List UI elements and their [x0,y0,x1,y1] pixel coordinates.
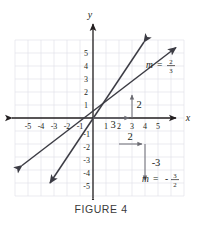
y-tick-3: 3 [84,75,88,84]
slope-negative-equals: = [153,174,158,184]
slope-positive-numerator: 2 [169,58,173,65]
slope-positive-equals: = [157,60,162,70]
slope-negative-m: m [142,174,149,184]
slope-label-positive: m = 2 3 [146,58,175,74]
x-tick-4: 4 [143,122,147,131]
figure-caption: FIGURE 4 [0,203,202,215]
y-tick--5: -5 [83,182,90,191]
x-tick-2: 2 [117,122,121,131]
slope-negative-numerator: 3 [173,172,177,179]
x-tick--3: -3 [51,122,58,131]
run-label-positive: 3 [110,119,115,130]
slope-label-negative: m = - 3 2 [142,172,179,188]
y-tick--4: -4 [83,169,90,178]
slope-positive-m: m [146,60,153,70]
x-tick-3: 3 [130,122,134,131]
coordinate-plane: x y -5 -4 -3 -2 -1 1 2 3 4 5 5 4 3 2 1 -… [0,0,202,200]
slope-triangle-negative: 2 -3 [119,131,160,180]
figure-container: x y -5 -4 -3 -2 -1 1 2 3 4 5 5 4 3 2 1 -… [0,0,202,227]
y-tick--3: -3 [83,156,90,165]
rise-label-negative: -3 [152,157,161,168]
graph-svg: x y -5 -4 -3 -2 -1 1 2 3 4 5 5 4 3 2 1 -… [0,0,202,200]
x-tick--4: -4 [38,122,45,131]
y-tick-5: 5 [84,49,88,58]
axis-label-x: x [185,112,191,123]
x-tick-1: 1 [104,122,108,131]
axis-label-y: y [87,9,93,20]
rise-label-positive: 2 [136,99,141,110]
y-tick-2: 2 [84,88,88,97]
x-tick--5: -5 [25,122,32,131]
y-tick-4: 4 [84,62,88,71]
x-tick-5: 5 [156,122,160,131]
slope-positive-denominator: 3 [169,67,173,74]
slope-negative-denominator: 2 [173,181,177,188]
line-positive-slope [22,48,176,166]
slope-negative-sign: - [165,174,168,184]
line-negative-slope [50,42,144,183]
y-tick-1: 1 [84,101,88,110]
y-tick--2: -2 [83,143,90,152]
run-label-negative: 2 [127,131,132,142]
